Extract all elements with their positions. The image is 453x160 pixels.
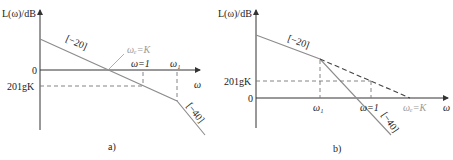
level-label-a: 201gK: [7, 81, 35, 92]
y-axis-label-b: L(ω)/dB: [218, 8, 252, 20]
x-axis-label-b: ω: [443, 102, 450, 113]
omega-one-label-b: ω=1: [360, 102, 379, 113]
crossover-pointer-a: [108, 54, 124, 70]
crossover-label-b: ωₑ=K: [403, 102, 427, 113]
bode-diagrams: L(ω)/dB ω 0 201gK ωₑ=K ω=1 ω₁ [−20] [−40…: [0, 0, 453, 160]
zero-label-a: 0: [32, 65, 37, 76]
diagram-b: L(ω)/dB ω 0 201gK ω₁ ω=1 ωₑ=K [−20] [−40…: [218, 8, 450, 155]
y-axis-label-a: L(ω)/dB: [2, 8, 36, 20]
omega1-label-b: ω₁: [313, 102, 324, 113]
extended-asymptote-b: [320, 59, 410, 98]
level-label-b: 201gK: [224, 76, 252, 87]
slope-20-label-a: [−20]: [64, 33, 89, 52]
caption-b: b): [333, 143, 341, 155]
magnitude-curve-a: [40, 39, 205, 135]
omega-one-label-a: ω=1: [131, 58, 150, 69]
zero-label-b: 0: [248, 93, 253, 104]
x-axis-label-a: ω: [194, 79, 201, 90]
caption-a: a): [108, 141, 116, 153]
slope-40-label-a: [−40]: [184, 100, 206, 124]
omega1-label-a: ω₁: [170, 58, 181, 69]
crossover-label-a: ωₑ=K: [127, 44, 151, 55]
slope-40-label-b: [−40]: [379, 110, 401, 135]
diagram-a: L(ω)/dB ω 0 201gK ωₑ=K ω=1 ω₁ [−20] [−40…: [2, 8, 207, 153]
